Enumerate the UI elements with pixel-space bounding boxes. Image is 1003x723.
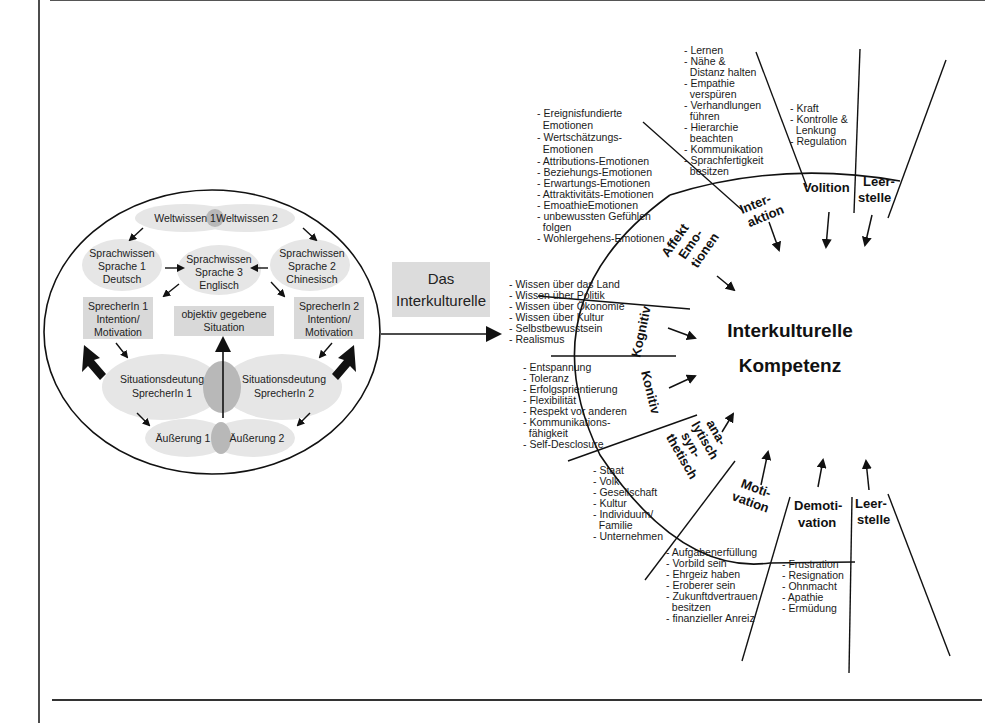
das-line1: Das (428, 270, 455, 287)
sprecherin-2-line3: Motivation (305, 326, 353, 338)
segment-affekt: Affekt Emo- tionen (658, 213, 722, 277)
list-volition: - Kraft - Kontrolle & Lenkung - Regulati… (790, 102, 848, 147)
segment-kognitiv: Kognitiv (628, 304, 654, 359)
svg-text:besitzen: besitzen (684, 165, 729, 177)
svg-text:- finanzieller Anreiz: - finanzieller Anreiz (666, 612, 755, 624)
diagram-stage: Weltwissen 1 Weltwissen 2 Sprachwissen S… (0, 0, 1003, 723)
segment-analytisch: ana- lytisch syn- thetisch (663, 410, 737, 482)
svg-text:Demoti-: Demoti- (794, 498, 842, 513)
deutung-2-line1: Situationsdeutung (242, 373, 326, 385)
sprecherin-2-line2: Intention/ (307, 313, 350, 325)
sprecherin-1-line3: Motivation (94, 326, 142, 338)
situation-line2: Situation (204, 321, 245, 333)
sprachwissen-2-line2: Sprache 2 (288, 260, 336, 272)
sprachwissen-2-line3: Chinesisch (286, 273, 338, 285)
das-line2: Interkulturelle (396, 292, 486, 309)
svg-text:- Wohlergehens-Emotionen: - Wohlergehens-Emotionen (537, 232, 665, 244)
svg-text:- Wertschätzungs-: - Wertschätzungs- (537, 131, 623, 143)
list-motivation: - Aufgabenerfüllung - Vorbild sein - Ehr… (666, 546, 758, 624)
svg-text:- Ermüdung: - Ermüdung (782, 602, 837, 614)
svg-text:stelle: stelle (857, 512, 890, 527)
list-kognitiv: - Wissen über das Land - Wissen über Pol… (509, 278, 625, 345)
feedback-arrow-right (332, 345, 356, 380)
deutung-2-line2: SprecherIn 2 (254, 387, 314, 399)
svg-text:stelle: stelle (858, 190, 891, 205)
aeusserung-2: Äußerung 2 (230, 432, 285, 444)
list-analytisch: - Staat - Volk - Gesellschaft - Kultur -… (593, 464, 663, 542)
deutung-1-line1: Situationsdeutung (120, 373, 204, 385)
sprecherin-1-line2: Intention/ (96, 313, 139, 325)
deutung-1-line2: SprecherIn 1 (132, 387, 192, 399)
segment-demotivation: Demoti- vation (794, 498, 842, 530)
situation-line1: objektiv gegebene (181, 308, 266, 320)
svg-text:vation: vation (798, 515, 836, 530)
svg-text:- Ereignisfundierte: - Ereignisfundierte (537, 107, 622, 119)
segment-leerstelle-bottom: Leer- stelle (855, 496, 890, 527)
list-interaktion: - Lernen - Nähe & Distanz halten - Empat… (684, 44, 763, 177)
segment-interaktion: Inter- aktion (738, 188, 787, 231)
center-title-line1: Interkulturelle (727, 320, 853, 341)
sprachwissen-3-line2: Sprache 3 (195, 266, 243, 278)
sprecherin-2-line1: SprecherIn 2 (299, 300, 359, 312)
svg-text:- Regulation: - Regulation (790, 135, 847, 147)
svg-text:Leer-: Leer- (855, 496, 887, 511)
list-demotivation: - Frustration - Resignation - Ohnmacht -… (782, 558, 844, 614)
weltwissen-1: Weltwissen 1 (154, 212, 216, 224)
svg-text:Leer-: Leer- (863, 174, 895, 189)
sprachwissen-2-line1: Sprachwissen (279, 247, 345, 259)
sprachwissen-1-line2: Sprache 1 (98, 260, 146, 272)
communication-model: Weltwissen 1 Weltwissen 2 Sprachwissen S… (44, 190, 380, 474)
weltwissen-2: Weltwissen 2 (216, 212, 278, 224)
segment-konitiv: Konitiv (638, 369, 663, 416)
svg-text:- Self-Desclosure: - Self-Desclosure (523, 438, 604, 450)
center-title-line2: Kompetenz (739, 355, 841, 376)
sprachwissen-1-line1: Sprachwissen (89, 247, 155, 259)
sprachwissen-3-line1: Sprachwissen (186, 253, 252, 265)
segment-volition: Volition (803, 180, 850, 195)
sprachwissen-1-line3: Deutsch (103, 273, 142, 285)
segment-motivation: Moti- vation (730, 474, 776, 515)
aeusserung-1: Äußerung 1 (156, 432, 211, 444)
svg-text:- Unternehmen: - Unternehmen (593, 530, 663, 542)
feedback-arrow-left (82, 345, 106, 380)
list-affekt: - Ereignisfundierte Emotionen - Wertschä… (537, 107, 665, 244)
svg-text:Emotionen: Emotionen (537, 119, 593, 131)
segment-leerstelle-top: Leer- stelle (858, 174, 895, 205)
sprecherin-1-line1: SprecherIn 1 (88, 300, 148, 312)
svg-text:- Realismus: - Realismus (509, 333, 564, 345)
sprachwissen-3-line3: Englisch (199, 279, 239, 291)
svg-text:Emotionen: Emotionen (537, 143, 593, 155)
connector: Das Interkulturelle (381, 262, 498, 334)
